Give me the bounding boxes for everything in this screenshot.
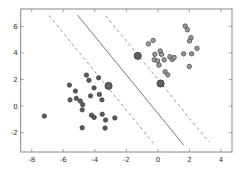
class0-point — [113, 116, 117, 120]
class1-point — [195, 46, 199, 50]
y-tick-label: 4 — [13, 49, 18, 57]
class1-point — [153, 52, 157, 56]
class1-point — [155, 59, 159, 63]
class0-point — [92, 115, 96, 119]
class0-point — [100, 112, 104, 116]
class1-point — [151, 38, 155, 42]
class1-point — [166, 73, 170, 77]
class0-point — [87, 78, 91, 82]
decision-boundary-line — [77, 15, 183, 145]
class0-point — [100, 98, 104, 102]
class0-point — [80, 103, 84, 107]
x-tick-label: 2 — [187, 156, 191, 164]
class0-point — [80, 108, 84, 112]
x-tick-label: -8 — [28, 156, 35, 164]
support-vector-point — [157, 80, 164, 87]
class0-point — [84, 73, 88, 77]
support-vector-point — [134, 52, 141, 59]
x-tick-label: 0 — [156, 156, 160, 164]
class1-point — [159, 52, 163, 56]
axes-frame — [21, 9, 232, 152]
class0-point — [103, 118, 107, 122]
class1-point — [172, 55, 176, 59]
class1-point — [189, 52, 193, 56]
class1-point — [187, 39, 191, 43]
class0-point — [73, 89, 77, 93]
x-tick-label: 4 — [219, 156, 224, 164]
x-tick-label: -2 — [123, 156, 130, 164]
class0-point — [74, 96, 78, 100]
class0-point — [88, 94, 92, 98]
y-tick-label: 2 — [13, 76, 17, 84]
x-tick-label: -4 — [91, 156, 99, 164]
class0-point — [103, 126, 107, 130]
class0-point — [92, 86, 96, 90]
margin-line — [49, 16, 154, 144]
y-tick-label: 6 — [13, 23, 18, 31]
class0-point — [96, 76, 100, 80]
x-axis: -8-6-4-2024 — [28, 9, 223, 164]
y-tick-label: -2 — [11, 129, 18, 137]
class1-point — [146, 42, 150, 46]
class0-point — [68, 98, 72, 102]
x-tick-label: -6 — [60, 156, 68, 164]
margin-line — [106, 16, 209, 142]
class0-point — [67, 83, 71, 87]
class1-point — [162, 58, 166, 62]
y-tick-label: 0 — [13, 103, 17, 111]
lines-layer — [49, 15, 209, 145]
class0-point — [97, 92, 101, 96]
points-layer — [42, 24, 199, 130]
y-axis: -20246 — [11, 23, 232, 137]
class0-point — [42, 114, 46, 118]
class0-point — [80, 126, 84, 130]
support-vector-point — [105, 82, 112, 89]
class1-point — [181, 52, 185, 56]
class1-point — [187, 64, 191, 68]
class1-point — [157, 63, 161, 67]
svm-scatter-chart: -8-6-4-2024 -20246 — [0, 0, 241, 170]
class1-point — [185, 28, 189, 32]
